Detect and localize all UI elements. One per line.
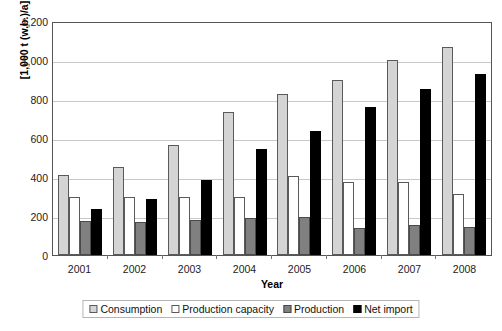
bar-production-2002 (135, 222, 146, 255)
bar-consumption-2003 (168, 145, 179, 255)
legend-swatch-icon (89, 305, 97, 313)
legend-label: Net import (364, 303, 412, 315)
y-tick-label: 0 (4, 251, 48, 261)
x-tick-label-2002: 2002 (107, 262, 162, 276)
bar-capacity-2005 (288, 176, 299, 255)
bar-consumption-2002 (113, 167, 124, 255)
y-axis-tick-labels: 02004006008001,0001,200 (0, 0, 48, 331)
x-tick-label-2008: 2008 (437, 262, 492, 276)
bar-netimport-2001 (91, 209, 102, 255)
y-tick-label: 1,200 (4, 17, 48, 27)
bar-capacity-2006 (343, 182, 354, 255)
bar-production-2008 (464, 227, 475, 255)
bar-netimport-2008 (475, 74, 486, 255)
bar-capacity-2002 (124, 197, 135, 256)
chart-legend: ConsumptionProduction capacityProduction… (82, 300, 419, 318)
bar-netimport-2003 (201, 180, 212, 255)
bar-group-2001 (53, 23, 108, 255)
x-tick-label-2007: 2007 (382, 262, 437, 276)
x-axis-title: Year (52, 278, 492, 290)
legend-item-consumption[interactable]: Consumption (89, 303, 162, 315)
x-tick-mark (326, 255, 327, 259)
bar-consumption-2005 (277, 94, 288, 255)
bar-netimport-2005 (310, 131, 321, 255)
bar-netimport-2006 (365, 107, 376, 255)
bar-production-2003 (190, 220, 201, 255)
bars-layer (53, 23, 491, 255)
legend-swatch-icon (353, 305, 361, 313)
legend-label: Consumption (100, 303, 162, 315)
chart-screenshot: [1,000 t (w.b.)/a] 02004006008001,0001,2… (0, 0, 502, 331)
bar-netimport-2004 (256, 149, 267, 255)
x-tick-label-2005: 2005 (272, 262, 327, 276)
bar-production-2001 (80, 221, 91, 255)
y-tick-label: 800 (4, 95, 48, 105)
legend-item-capacity[interactable]: Production capacity (171, 303, 274, 315)
plot-area (52, 22, 492, 256)
x-tick-mark (435, 255, 436, 259)
x-tick-label-2004: 2004 (217, 262, 272, 276)
legend-label: Production capacity (182, 303, 274, 315)
bar-production-2005 (299, 217, 310, 255)
x-axis-tick-labels: 20012002200320042005200620072008 (52, 262, 492, 276)
bar-capacity-2003 (179, 197, 190, 255)
bar-capacity-2008 (453, 194, 464, 255)
bar-production-2007 (409, 225, 420, 255)
bar-production-2006 (354, 228, 365, 255)
x-tick-mark (381, 255, 382, 259)
bar-netimport-2007 (420, 89, 431, 255)
bar-group-2005 (272, 23, 327, 255)
bar-consumption-2001 (58, 175, 69, 255)
bar-consumption-2006 (332, 80, 343, 255)
y-tick-label: 1,000 (4, 56, 48, 66)
x-tick-label-2006: 2006 (327, 262, 382, 276)
bar-capacity-2001 (69, 197, 80, 256)
bar-group-2007 (382, 23, 437, 255)
legend-item-netimport[interactable]: Net import (353, 303, 412, 315)
y-tick-label: 600 (4, 134, 48, 144)
legend-swatch-icon (283, 305, 291, 313)
x-tick-mark (162, 255, 163, 259)
bar-group-2006 (327, 23, 382, 255)
bar-production-2004 (245, 218, 256, 255)
bar-consumption-2004 (223, 112, 234, 255)
legend-label: Production (294, 303, 344, 315)
y-tick-label: 200 (4, 212, 48, 222)
x-tick-mark (107, 255, 108, 259)
bar-netimport-2002 (146, 199, 157, 255)
bar-group-2002 (108, 23, 163, 255)
legend-swatch-icon (171, 305, 179, 313)
x-tick-mark (271, 255, 272, 259)
y-tick-label: 400 (4, 173, 48, 183)
bar-group-2004 (217, 23, 272, 255)
x-tick-mark (216, 255, 217, 259)
legend-item-production[interactable]: Production (283, 303, 344, 315)
bar-group-2008 (436, 23, 491, 255)
bar-capacity-2004 (234, 197, 245, 256)
bar-consumption-2008 (442, 47, 453, 255)
x-tick-label-2003: 2003 (162, 262, 217, 276)
x-tick-label-2001: 2001 (52, 262, 107, 276)
bar-consumption-2007 (387, 60, 398, 255)
bar-group-2003 (163, 23, 218, 255)
bar-capacity-2007 (398, 182, 409, 255)
